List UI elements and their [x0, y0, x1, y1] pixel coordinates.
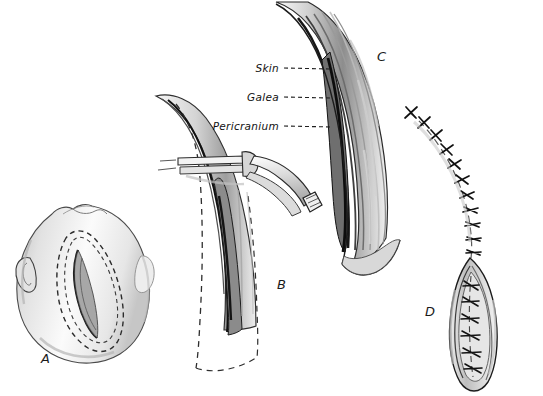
panel-label-c: C — [377, 49, 387, 64]
label-galea: Galea — [247, 91, 279, 103]
figure-canvas: A B — [0, 0, 543, 396]
clamp-jaw-lower — [180, 165, 247, 174]
illustration-svg: A B — [0, 0, 543, 396]
panel-label-b: B — [277, 277, 286, 292]
panel-label-a: A — [40, 351, 50, 366]
clamp-jaw-upper — [178, 156, 246, 165]
panel-label-d: D — [425, 304, 435, 319]
label-skin: Skin — [255, 62, 279, 74]
label-pericranium: Pericranium — [213, 120, 279, 132]
